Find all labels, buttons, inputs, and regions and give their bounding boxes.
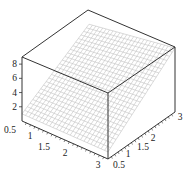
x-tick-label: 1.5	[38, 142, 50, 152]
x-tick-label: 1	[28, 131, 33, 141]
surface-plot: 2468 0.511.523 0.511.523	[0, 0, 187, 180]
z-tick-label: 4	[12, 88, 17, 98]
x-tick-label: 3	[96, 160, 101, 170]
x-axis-ticks: 0.511.523	[4, 123, 104, 170]
z-axis-ticks: 2468	[12, 59, 22, 112]
z-tick-label: 8	[12, 59, 17, 69]
y-tick-label: 0.5	[113, 160, 125, 170]
y-tick-label: 1.5	[137, 142, 149, 152]
x-tick-label: 0.5	[4, 125, 16, 135]
z-tick-label: 2	[12, 102, 17, 112]
y-tick-label: 3	[178, 112, 183, 122]
y-tick-label: 2	[151, 133, 156, 143]
x-tick-label: 2	[63, 148, 68, 158]
z-tick-label: 6	[12, 73, 17, 83]
y-tick-label: 1	[126, 149, 131, 159]
